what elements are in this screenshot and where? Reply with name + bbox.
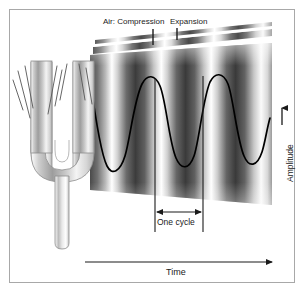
label-air-compression: Air: Compression: [103, 18, 164, 26]
label-amplitude: Amplitude: [286, 144, 295, 182]
label-one-cycle: One cycle: [157, 218, 195, 227]
sound-wave-figure: Air: Compression Expansion One cycle Amp…: [0, 0, 306, 296]
figure-artwork: [0, 0, 306, 296]
wave-gradient-panel: [90, 43, 272, 205]
label-expansion: Expansion: [170, 18, 207, 26]
label-time: Time: [166, 268, 186, 277]
